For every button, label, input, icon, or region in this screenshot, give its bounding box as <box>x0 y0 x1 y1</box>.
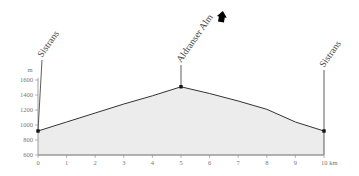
x-tick-label: 2 <box>94 159 97 166</box>
x-tick-label: 9 <box>294 159 297 166</box>
elevation-area <box>38 87 324 155</box>
y-tick-label: 1000 <box>20 121 33 128</box>
waypoint-marker: Sistrans <box>35 29 61 133</box>
x-tick-label: 6 <box>208 159 212 166</box>
x-tick-label: 8 <box>265 159 268 166</box>
alpine-hut-icon <box>216 10 228 23</box>
y-axis-unit-label: m <box>27 66 32 73</box>
x-tick-label: 4 <box>151 159 155 166</box>
waypoint-marker: Sistrans <box>317 39 343 133</box>
y-tick-label: 600 <box>23 151 33 158</box>
y-tick-label: 800 <box>23 136 33 143</box>
waypoint-label: Aldranser Alm <box>174 12 215 64</box>
x-tick-label: 5 <box>179 159 182 166</box>
elevation-profile-chart: 6008001000120014001600 012345678910 km m… <box>0 0 359 176</box>
waypoint-label: Sistrans <box>35 29 61 60</box>
y-tick-label: 1400 <box>20 91 33 98</box>
x-tick-label: 3 <box>122 159 125 166</box>
y-axis: 6008001000120014001600 <box>20 76 38 158</box>
x-tick-label: 1 <box>65 159 68 166</box>
x-tick-label: 10 km <box>321 159 337 166</box>
y-tick-label: 1200 <box>20 106 33 113</box>
y-tick-label: 1600 <box>20 76 33 83</box>
x-axis: 012345678910 km <box>36 155 337 166</box>
waypoint-marker: Aldranser Alm <box>174 10 227 88</box>
waypoint-label: Sistrans <box>317 39 343 70</box>
x-tick-label: 0 <box>36 159 39 166</box>
x-tick-label: 7 <box>237 159 241 166</box>
